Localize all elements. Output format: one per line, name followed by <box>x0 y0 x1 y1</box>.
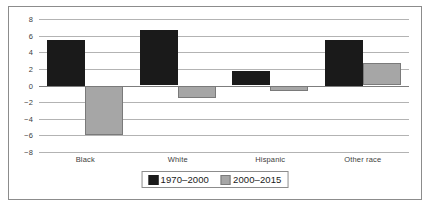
bar <box>178 86 216 98</box>
y-axis-tick-label: 4 <box>29 48 33 57</box>
bar <box>47 40 85 86</box>
bar <box>85 86 123 135</box>
chart-legend: 1970–20002000–2015 <box>142 171 289 188</box>
bar <box>140 30 178 86</box>
y-axis-tick-labels: 86420−2−4−6−8 <box>9 19 37 152</box>
y-axis-tick-label: −4 <box>24 114 33 123</box>
bar-group <box>132 19 225 152</box>
y-axis-tick-label: 8 <box>29 15 33 24</box>
legend-swatch-icon <box>149 175 159 185</box>
y-axis-tick-label: −2 <box>24 98 33 107</box>
x-axis-tick-label: Black <box>76 155 95 164</box>
bar-group <box>39 19 132 152</box>
bar <box>325 40 363 86</box>
y-axis-tick-label: −6 <box>24 131 33 140</box>
plot-area <box>39 19 409 152</box>
y-axis-tick-label: 2 <box>29 64 33 73</box>
bar-group <box>317 19 410 152</box>
legend-item[interactable]: 2000–2015 <box>221 174 281 185</box>
y-axis-tick-label: −8 <box>24 148 33 157</box>
bar <box>363 63 401 85</box>
legend-item[interactable]: 1970–2000 <box>149 174 209 185</box>
y-axis-tick-label: 6 <box>29 31 33 40</box>
bar <box>232 71 270 85</box>
bar-group <box>224 19 317 152</box>
x-axis-category-labels: BlackWhiteHispanicOther race <box>39 155 409 169</box>
x-axis-tick-label: Other race <box>344 155 381 164</box>
legend-label: 2000–2015 <box>233 174 281 185</box>
y-axis-tick-label: 0 <box>29 81 33 90</box>
bar <box>270 86 308 92</box>
legend-swatch-icon <box>221 175 231 185</box>
x-axis-tick-label: White <box>168 155 188 164</box>
bar-series-container <box>39 19 409 152</box>
gridline <box>39 152 409 153</box>
chart-figure: 86420−2−4−6−8 BlackWhiteHispanicOther ra… <box>8 6 422 200</box>
x-axis-tick-label: Hispanic <box>255 155 285 164</box>
legend-label: 1970–2000 <box>161 174 209 185</box>
